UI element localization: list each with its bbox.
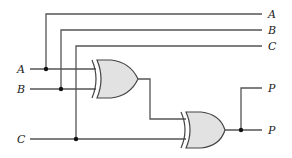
logic-circuit-diagram: A B C A B C P P <box>0 0 292 158</box>
xor-gate-2 <box>181 112 225 148</box>
junction-c <box>74 137 78 141</box>
junction-p <box>239 128 243 132</box>
wire-g1-output <box>138 79 186 119</box>
wire-p-branch <box>241 88 262 130</box>
label-input-a: A <box>16 63 25 76</box>
junction-a <box>44 67 48 71</box>
label-bus-a: A <box>267 8 276 21</box>
label-output-p-bottom: P <box>267 124 276 137</box>
wire-a-bus <box>46 14 262 69</box>
label-bus-b: B <box>267 24 276 37</box>
label-bus-c: C <box>268 40 277 53</box>
wire-b-bus <box>61 30 262 89</box>
junction-b <box>59 87 63 91</box>
label-input-b: B <box>16 83 25 96</box>
label-output-p-top: P <box>267 82 276 95</box>
label-input-c: C <box>17 133 26 146</box>
xor-gate-1 <box>92 60 138 98</box>
